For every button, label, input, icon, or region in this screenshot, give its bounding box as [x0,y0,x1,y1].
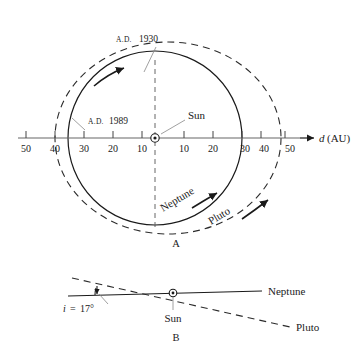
orbit-figure: 50 40 30 20 10 10 20 30 40 50 d (AU) [0,0,352,347]
epoch-1989-prefix: A.D. [88,117,104,126]
panel-b-pluto-label: Pluto [296,321,320,333]
axis-tick-label-left-50: 50 [21,143,31,154]
panel-b: i = 17° Sun Neptune Pluto B [63,278,320,343]
inclination-value: 17° [80,303,94,314]
axis-tick-label-right-10: 10 [179,143,189,154]
axis-tick-label-right-50: 50 [285,143,295,154]
inclination-symbol: i [63,303,66,314]
inclination-angle-arc [95,288,96,295]
panel-a-label: A [172,238,180,249]
panel-b-label: B [172,332,179,343]
axis-tick-label-right-40: 40 [259,143,269,154]
neptune-motion-arrow [192,193,217,208]
epoch-1930-prefix: A.D. [116,35,132,44]
panel-b-sun-label: Sun [164,312,182,324]
axis-tick-label-right-30: 30 [240,143,250,154]
panel-a: 50 40 30 20 10 10 20 30 40 50 d (AU) [18,34,351,249]
figure-canvas: 50 40 30 20 10 10 20 30 40 50 d (AU) [0,0,352,347]
epoch-1930-year: 1930 [139,34,158,44]
axis-tick-label-left-20: 20 [108,143,118,154]
axis-tick-label-left-10: 10 [137,143,147,154]
axis-unit-symbol: d [319,132,325,144]
axis-ticks-right [184,131,285,138]
axis-tick-label-left-40: 40 [50,143,60,154]
sun-symbol [151,134,159,142]
epoch-1989-leader-line [72,118,85,130]
panel-b-sun-symbol [169,289,177,297]
sun-leader-line [161,120,185,134]
pluto-motion-arrow [242,200,268,219]
panel-b-neptune-label: Neptune [268,285,305,297]
axis-ticks-left [26,131,142,138]
axis-unit-text: (AU) [327,132,351,145]
inclination-equals: = [70,303,76,314]
sun-label: Sun [188,109,206,121]
neptune-direction-arrow [94,68,124,86]
neptune-orbit-label: Neptune [158,184,196,214]
axis-tick-label-right-20: 20 [208,143,218,154]
epoch-1989-year: 1989 [109,116,128,126]
axis-tick-label-left-30: 30 [79,143,89,154]
